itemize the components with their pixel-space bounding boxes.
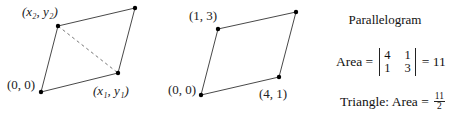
label-p1-right: (4, 1)	[259, 86, 287, 101]
example-parallelogram: (0, 0) (4, 1) (1, 3)	[168, 8, 298, 101]
label-p2-right: (1, 3)	[189, 8, 217, 23]
matrix-cell: 1	[384, 62, 390, 75]
vertex-origin-right	[199, 93, 203, 97]
label-p2-left: (x₂, y₂)	[22, 4, 58, 19]
vertex-sum-right	[294, 10, 298, 14]
triangle-label: Triangle: Area =	[340, 94, 429, 110]
vertex-p2-right	[216, 27, 220, 31]
vertex-p2-left	[56, 24, 60, 28]
formula-panel: Parallelogram Area = 4 1 1 3 = 11 Triang…	[310, 0, 460, 117]
fraction-denominator: 2	[437, 102, 442, 111]
triangle-area-equation: Triangle: Area = 11 2	[340, 92, 445, 111]
vertex-p1-left	[116, 71, 120, 75]
area-equation: Area = 4 1 1 3 = 11	[336, 48, 446, 76]
determinant-matrix: 4 1 1 3	[379, 48, 416, 76]
parallelogram-outline-right	[201, 12, 296, 95]
triangle-area-fraction: 11 2	[434, 92, 445, 111]
vertex-sum-left	[133, 6, 137, 10]
vertex-origin-left	[39, 90, 43, 94]
label-p1-left: (x₁, y₁)	[93, 83, 129, 98]
general-parallelogram: (0, 0) (x₁, y₁) (x₂, y₂)	[7, 4, 137, 98]
area-result: = 11	[422, 54, 446, 70]
panel-title: Parallelogram	[310, 12, 460, 28]
matrix-cell: 3	[404, 62, 410, 75]
dashed-diagonal	[58, 26, 118, 73]
vertex-p1-right	[277, 75, 281, 79]
label-origin-right: (0, 0)	[168, 82, 196, 97]
area-label: Area =	[336, 54, 373, 70]
label-origin-left: (0, 0)	[7, 77, 35, 92]
